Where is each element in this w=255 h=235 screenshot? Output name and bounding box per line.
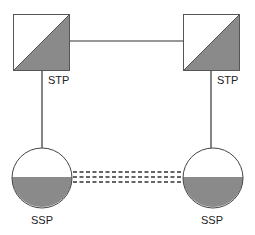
stp-label-left: STP [48, 74, 69, 86]
ss7-network-diagram: STP STP SSP SSP [0, 0, 255, 235]
ssp-node-right [183, 148, 243, 208]
stp-node-right [184, 15, 240, 71]
ssp-label-right: SSP [201, 214, 223, 226]
ssp-label-left: SSP [31, 214, 53, 226]
stp-node-left [14, 15, 70, 71]
stp-label-right: STP [217, 74, 238, 86]
ssp-node-left [12, 148, 72, 208]
link-ssp-ssp-dashed [73, 172, 183, 182]
